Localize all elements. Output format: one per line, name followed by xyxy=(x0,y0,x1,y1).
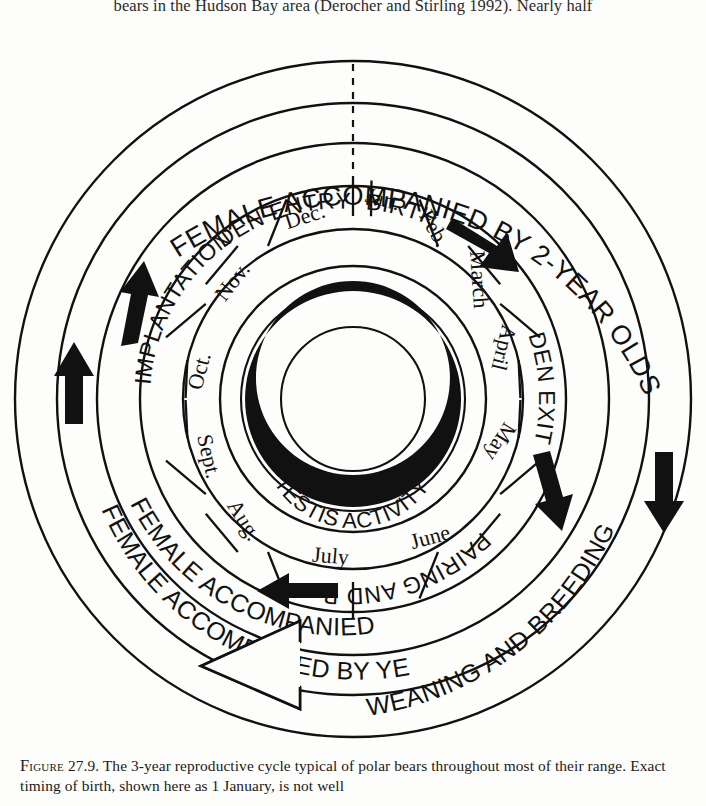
caption-figure-number: 27.9. xyxy=(68,757,99,774)
testis-crescent-shape xyxy=(245,281,461,507)
month-label-june: June xyxy=(407,519,452,554)
label-den-entry-text: DEN ENTRY xyxy=(211,187,351,252)
month-label-sept: Sept. xyxy=(192,432,226,481)
inner-circle xyxy=(281,327,425,471)
label-den-exit: DEN EXIT xyxy=(523,329,560,447)
label-den-exit-text: DEN EXIT xyxy=(523,329,560,447)
cycle-diagram-svg: FEMALE ACCOMPANIED BY 2-YEAR OLDS FEMALE… xyxy=(0,46,706,746)
month-label-april: April xyxy=(487,322,522,373)
polar-bear-cycle-figure: FEMALE ACCOMPANIED BY 2-YEAR OLDS FEMALE… xyxy=(0,46,706,746)
caption-figure-word: Figure xyxy=(20,756,64,775)
month-label-july: July xyxy=(311,541,350,569)
figure-caption: Figure 27.9. The 3-year reproductive cyc… xyxy=(20,756,690,795)
month-label-oct: Oct. xyxy=(182,350,216,392)
label-den-entry: DEN ENTRY xyxy=(211,187,351,252)
running-body-text: bears in the Hudson Bay area (Derocher a… xyxy=(0,0,706,16)
caption-line-1: The 3-year reproductive cycle typical of… xyxy=(103,757,500,774)
ring-boundary-3 xyxy=(97,143,609,655)
month-label-aug: Aug. xyxy=(222,495,266,545)
figure-page: bears in the Hudson Bay area (Derocher a… xyxy=(0,0,706,806)
arrow-den-exit-down xyxy=(533,451,573,531)
month-label-may: May xyxy=(479,418,522,465)
